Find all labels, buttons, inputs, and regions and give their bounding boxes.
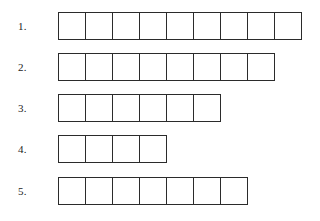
row-number-label: 2. <box>18 53 52 81</box>
row-number-label: 4. <box>18 135 52 163</box>
answer-cell[interactable] <box>112 94 140 122</box>
answer-cell[interactable] <box>58 12 86 40</box>
answer-cell[interactable] <box>139 94 167 122</box>
cell-strip <box>58 177 248 205</box>
answer-cell[interactable] <box>85 135 113 163</box>
cell-strip <box>58 135 167 163</box>
answer-cell[interactable] <box>112 12 140 40</box>
answer-cell[interactable] <box>139 177 167 205</box>
answer-cell[interactable] <box>247 12 275 40</box>
answer-cell[interactable] <box>85 94 113 122</box>
answer-cell[interactable] <box>166 12 194 40</box>
answer-cell[interactable] <box>58 94 86 122</box>
answer-cell[interactable] <box>112 135 140 163</box>
answer-cell[interactable] <box>139 53 167 81</box>
row-number-label: 5. <box>18 177 52 205</box>
answer-cell[interactable] <box>85 53 113 81</box>
answer-cell[interactable] <box>274 12 302 40</box>
answer-cell[interactable] <box>58 53 86 81</box>
answer-cell[interactable] <box>139 12 167 40</box>
answer-cell[interactable] <box>85 177 113 205</box>
answer-cell[interactable] <box>112 177 140 205</box>
answer-cell[interactable] <box>193 53 221 81</box>
worksheet-canvas: 1. 2. 3. 4. 5. <box>0 0 320 221</box>
answer-cell[interactable] <box>58 177 86 205</box>
cell-strip <box>58 53 275 81</box>
answer-cell[interactable] <box>247 53 275 81</box>
cell-strip <box>58 94 221 122</box>
answer-cell[interactable] <box>220 53 248 81</box>
row-number-label: 3. <box>18 94 52 122</box>
answer-cell[interactable] <box>166 94 194 122</box>
cell-strip <box>58 12 302 40</box>
answer-cell[interactable] <box>58 135 86 163</box>
row-number-label: 1. <box>18 12 52 40</box>
answer-cell[interactable] <box>166 53 194 81</box>
answer-cell[interactable] <box>166 177 194 205</box>
answer-cell[interactable] <box>85 12 113 40</box>
answer-cell[interactable] <box>220 12 248 40</box>
answer-cell[interactable] <box>112 53 140 81</box>
answer-cell[interactable] <box>193 12 221 40</box>
answer-cell[interactable] <box>220 177 248 205</box>
answer-cell[interactable] <box>193 177 221 205</box>
answer-cell[interactable] <box>139 135 167 163</box>
answer-cell[interactable] <box>193 94 221 122</box>
